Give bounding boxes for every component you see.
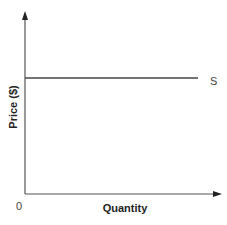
y-axis-arrow-icon <box>22 11 28 20</box>
y-axis-label: Price ($) <box>7 85 19 129</box>
x-axis-arrow-icon <box>213 191 222 197</box>
origin-label: 0 <box>16 200 22 212</box>
supply-curve-label: S <box>210 75 217 87</box>
supply-chart: S 0 Quantity Price ($) <box>0 0 227 225</box>
x-axis-label: Quantity <box>103 202 148 214</box>
